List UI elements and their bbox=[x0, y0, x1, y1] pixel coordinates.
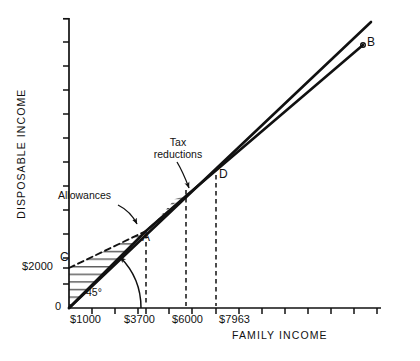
point-label-d: D bbox=[219, 168, 228, 181]
point-label-a: A bbox=[142, 231, 150, 244]
drop-lines bbox=[146, 175, 216, 306]
annotation-tax-reductions-text: Taxreductions bbox=[154, 136, 202, 160]
angle-arc bbox=[120, 257, 141, 308]
x-tick-label-7963: $7963 bbox=[219, 314, 250, 326]
series-45-degree-line bbox=[69, 22, 371, 308]
point-label-c: C bbox=[60, 251, 69, 264]
annotation-angle: 45° bbox=[86, 287, 102, 299]
x-tick-label-6000: $6000 bbox=[172, 314, 203, 326]
x-axis-title: FAMILY INCOME bbox=[232, 330, 328, 341]
annotation-allowances: Allowances bbox=[58, 190, 111, 202]
annotation-leaders bbox=[118, 162, 189, 224]
chart-canvas bbox=[0, 0, 420, 361]
y-axis-title: DISPOSABLE INCOME bbox=[16, 74, 27, 234]
y-tick-label-2000: $2000 bbox=[22, 261, 53, 273]
annotation-tax-reductions: Taxreductions bbox=[141, 137, 215, 161]
origin-label: 0 bbox=[55, 301, 61, 313]
chart-figure: DISPOSABLE INCOME FAMILY INCOME 0 $2000 … bbox=[0, 0, 420, 361]
x-tick-label-1000: $1000 bbox=[70, 314, 101, 326]
x-tick-label-3700: $3700 bbox=[124, 314, 155, 326]
point-label-b: B bbox=[367, 36, 375, 49]
y-axis-ticks bbox=[63, 42, 69, 284]
